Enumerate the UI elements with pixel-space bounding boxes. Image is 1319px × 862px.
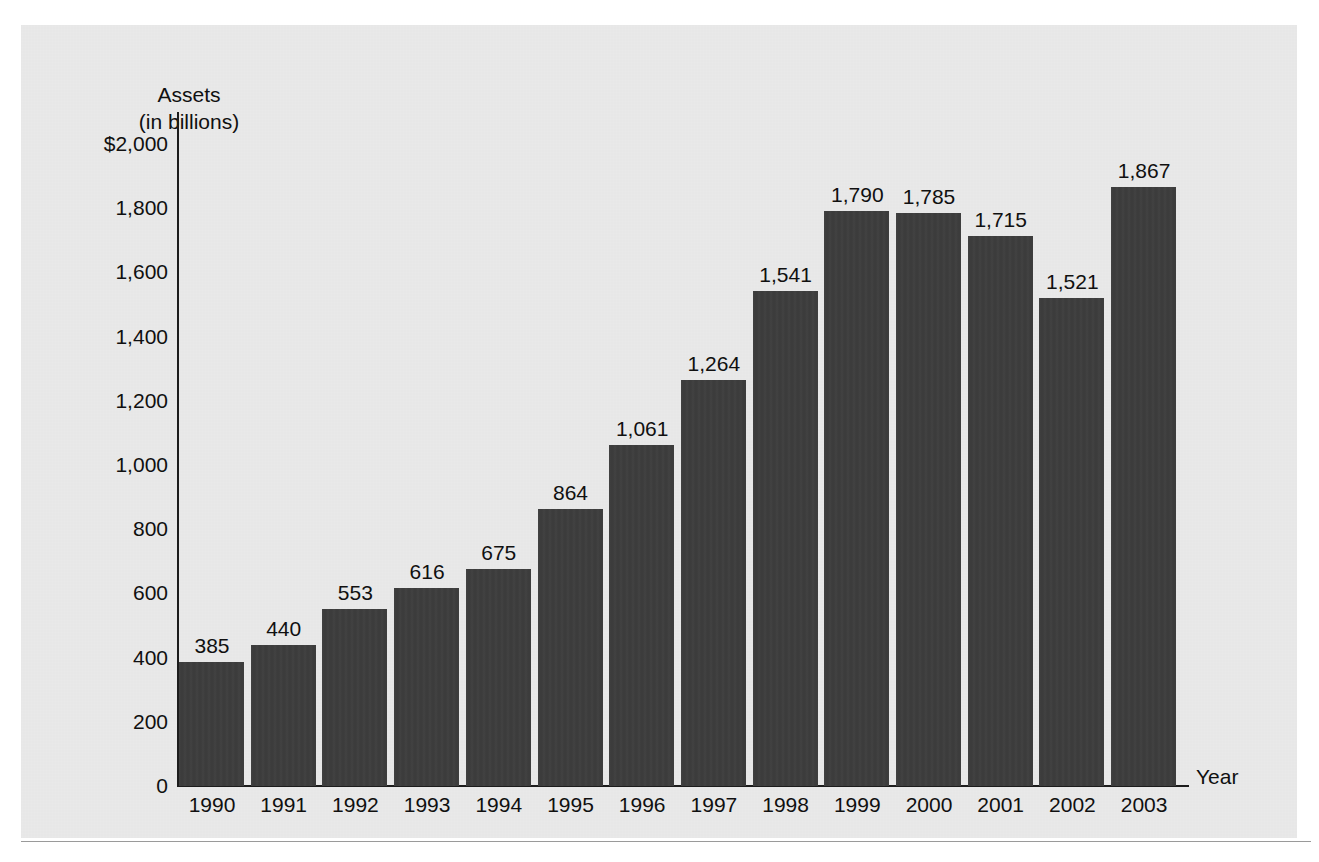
bar[interactable] [538,509,603,786]
x-axis-tick-label: 1992 [319,792,391,818]
y-axis-tick-label: 1,800 [8,197,168,218]
bar-group: 1,867 [1111,100,1182,786]
x-axis-tick-label: 2000 [893,792,965,818]
x-axis-tick-label: 1995 [535,792,607,818]
bar-group: 864 [538,100,609,786]
bar-value-label: 616 [391,561,463,582]
bar[interactable] [968,236,1033,787]
bar-value-label: 675 [463,542,535,563]
y-axis-tick-label: 1,000 [8,454,168,475]
x-axis-tick-labels: 1990199119921993199419951996199719981999… [179,792,1189,826]
x-axis-tick-label: 2003 [1108,792,1180,818]
bar-value-label: 1,264 [678,353,750,374]
bar[interactable] [322,609,387,787]
bar-group: 1,785 [896,100,967,786]
y-axis-tick-label: 200 [8,711,168,732]
bar-group: 553 [322,100,393,786]
bar-group: 1,521 [1039,100,1110,786]
y-axis-tick-label: 1,200 [8,390,168,411]
x-axis-tick-label: 2002 [1036,792,1108,818]
bar[interactable] [466,569,531,786]
bar-group: 616 [394,100,465,786]
bar-group: 1,715 [968,100,1039,786]
bar-group: 1,061 [609,100,680,786]
x-axis-tick-label: 1998 [750,792,822,818]
y-axis-tick-label: 1,400 [8,326,168,347]
bar-group: 440 [251,100,322,786]
bar-value-label: 1,715 [965,209,1037,230]
bar-value-label: 1,785 [893,186,965,207]
x-axis-tick-label: 1993 [391,792,463,818]
bar[interactable] [394,588,459,786]
y-axis-tick-label: 400 [8,647,168,668]
bar[interactable] [824,211,889,786]
bar-value-label: 1,867 [1108,160,1180,181]
y-axis-tick-label: 800 [8,518,168,539]
bar[interactable] [251,645,316,786]
x-axis-tick-label: 2001 [965,792,1037,818]
y-axis-tick-labels: $2,0001,8001,6001,4001,2001,000800600400… [0,0,168,813]
bar[interactable] [609,445,674,786]
x-axis-tick-label: 1991 [248,792,320,818]
x-axis-tick-label: 1990 [176,792,248,818]
y-axis-tick-label: 0 [8,775,168,796]
bar-value-label: 440 [248,618,320,639]
y-axis-tick-label: 600 [8,582,168,603]
bar-value-label: 1,541 [750,264,822,285]
bar[interactable] [753,291,818,786]
figure-bottom-rule [21,841,1311,842]
y-axis-tick-label: 1,600 [8,261,168,282]
chart-figure: Assets (in billions) Year $2,0001,8001,6… [0,0,1319,862]
bar-group: 1,264 [681,100,752,786]
bar[interactable] [1039,298,1104,786]
x-axis-title: Year [1196,765,1238,789]
bar-group: 675 [466,100,537,786]
bar[interactable] [179,662,244,786]
bar-value-label: 1,521 [1036,271,1108,292]
bar-value-label: 553 [319,582,391,603]
x-axis-tick-label: 1996 [606,792,678,818]
bar[interactable] [1111,187,1176,786]
x-axis-tick-label: 1997 [678,792,750,818]
bar-group: 385 [179,100,250,786]
y-axis-tick-label: $2,000 [8,133,168,154]
x-axis-tick-label: 1994 [463,792,535,818]
bar[interactable] [681,380,746,786]
bar-group: 1,790 [824,100,895,786]
bar-value-label: 864 [535,482,607,503]
bar-value-label: 1,790 [821,184,893,205]
bar-group: 1,541 [753,100,824,786]
plot-area: 3854405536166758641,0611,2641,5411,7901,… [179,100,1189,786]
bar-value-label: 1,061 [606,418,678,439]
bar[interactable] [896,213,961,786]
bar-value-label: 385 [176,635,248,656]
x-axis-tick-label: 1999 [821,792,893,818]
